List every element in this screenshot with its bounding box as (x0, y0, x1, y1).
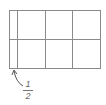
grid-diagram (0, 0, 106, 105)
fraction-denominator: 2 (23, 92, 33, 101)
half-fraction-label: 1 2 (23, 80, 33, 101)
arrow-icon (12, 70, 23, 86)
fraction-numerator: 1 (23, 80, 33, 89)
